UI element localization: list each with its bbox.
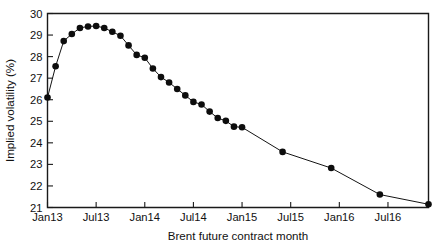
data-point-marker [77, 25, 84, 32]
x-axis-tick-labels: Jan13Jul13Jan14Jul14Jan15Jul15Jan16Jul16 [32, 211, 401, 223]
data-point-marker [133, 52, 140, 59]
x-tick-label: Jul15 [277, 211, 304, 223]
data-point-marker [52, 63, 59, 70]
y-tick-label: 29 [30, 29, 42, 41]
series-markers-implied-volatility [44, 23, 432, 208]
data-point-marker [150, 65, 157, 72]
data-point-marker [182, 92, 189, 99]
y-tick-label: 24 [30, 137, 42, 149]
y-tick-label: 28 [30, 51, 42, 63]
implied-volatility-line-chart: 21222324252627282930 Jan13Jul13Jan14Jul1… [0, 0, 443, 248]
data-point-marker [166, 79, 173, 86]
data-point-marker [117, 32, 124, 39]
data-point-marker [93, 23, 100, 30]
data-point-marker [158, 74, 165, 81]
x-tick-label: Jan13 [32, 211, 62, 223]
y-axis-tick-labels: 21222324252627282930 [30, 8, 42, 214]
data-point-marker [198, 101, 205, 108]
data-point-marker [101, 25, 108, 32]
axes-frame [48, 14, 429, 208]
data-point-marker [231, 123, 238, 130]
y-tick-label: 26 [30, 94, 42, 106]
data-point-marker [279, 149, 286, 156]
x-tick-label: Jul13 [83, 211, 110, 223]
data-point-marker [206, 108, 213, 115]
data-point-marker [141, 54, 148, 61]
data-point-marker [85, 23, 92, 30]
chart-figure: 21222324252627282930 Jan13Jul13Jan14Jul1… [0, 0, 443, 248]
y-tick-label: 22 [30, 180, 42, 192]
series-line-implied-volatility [48, 26, 429, 204]
y-tick-label: 27 [30, 72, 42, 84]
data-point-marker [377, 191, 384, 198]
data-point-marker [328, 165, 335, 172]
y-tick-label: 25 [30, 115, 42, 127]
x-tick-label: Jan15 [227, 211, 257, 223]
x-tick-label: Jul14 [180, 211, 207, 223]
data-point-marker [60, 38, 67, 45]
data-point-marker [69, 31, 76, 38]
x-axis-title: Brent future contract month [168, 229, 308, 242]
x-tick-label: Jan16 [324, 211, 354, 223]
x-axis-ticks [48, 202, 388, 208]
y-tick-label: 30 [30, 8, 42, 20]
y-tick-label: 23 [30, 158, 42, 170]
y-axis-title: Implied volatility (%) [3, 59, 16, 162]
data-point-marker [109, 29, 116, 36]
axis-box [48, 14, 429, 208]
data-point-marker [44, 94, 51, 101]
x-tick-label: Jul16 [375, 211, 402, 223]
data-point-marker [214, 115, 221, 122]
y-axis-ticks [48, 14, 54, 208]
data-point-marker [190, 99, 197, 106]
data-point-marker [174, 86, 181, 93]
data-point-marker [239, 124, 246, 131]
data-point-marker [223, 118, 230, 125]
data-point-marker [125, 42, 132, 49]
x-tick-label: Jan14 [130, 211, 160, 223]
data-point-marker [425, 201, 432, 208]
